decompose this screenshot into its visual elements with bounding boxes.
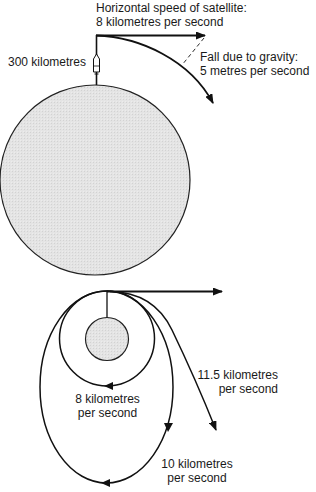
horizontal-speed-label: Horizontal speed of satellite: 8 kilomet… (96, 1, 247, 29)
elliptical-orbit-speed-label: 10 kilometres per second (158, 457, 236, 485)
altitude-label: 300 kilometres (8, 55, 86, 69)
horizontal-speed-label-line2: 8 kilometres per second (96, 15, 247, 29)
gravity-fall-label-line1: Fall due to gravity: (200, 50, 309, 64)
earth-small (86, 318, 129, 361)
rocket-icon (94, 54, 100, 74)
escape-speed-label: 11.5 kilometres per second (196, 368, 278, 396)
top-diagram (0, 35, 213, 275)
circular-orbit-arrowhead (104, 382, 113, 390)
elliptical-orbit-arrowhead-bottom (101, 479, 110, 487)
earth-large (0, 85, 190, 275)
horizontal-speed-label-line1: Horizontal speed of satellite: (96, 1, 247, 15)
gravity-fall-label: Fall due to gravity: 5 metres per second (200, 50, 309, 78)
circular-orbit-speed-label: 8 kilometres per second (70, 392, 145, 420)
gravity-fall-label-line2: 5 metres per second (200, 64, 309, 78)
